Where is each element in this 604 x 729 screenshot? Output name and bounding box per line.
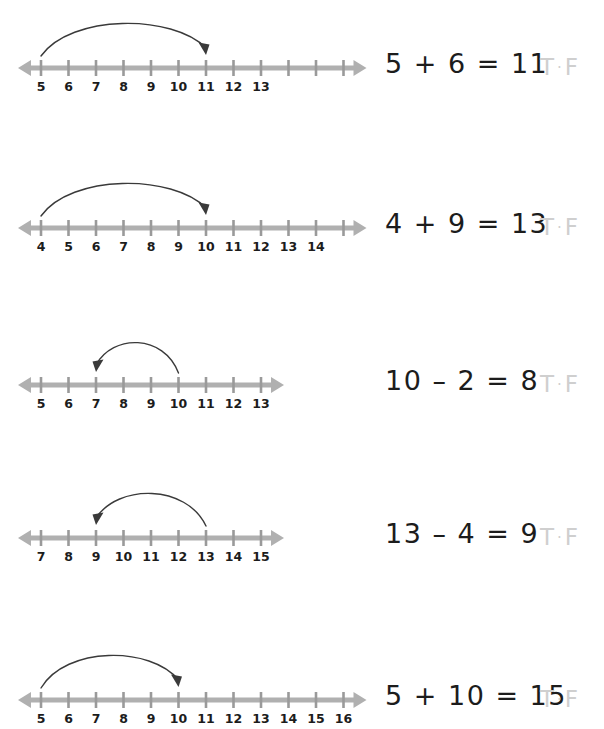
answer-true-option[interactable]: T (540, 54, 557, 80)
tick-label: 15 (307, 711, 324, 726)
tick-label: 4 (37, 239, 46, 254)
answer-choice-group: T·F (540, 56, 581, 79)
jump-arrowhead-icon (171, 675, 182, 688)
tick-label: 6 (64, 396, 73, 411)
tick-label: 11 (225, 239, 242, 254)
tick-label: 6 (92, 239, 101, 254)
problem-row: 45678910111213144 + 9 = 13T·F (0, 168, 604, 288)
number-line-4: 789101112131415 (0, 478, 380, 598)
tick-label: 9 (174, 239, 183, 254)
jump-arrowhead-icon (199, 43, 210, 56)
tick-label: 8 (119, 396, 128, 411)
axis-arrow-left-icon (18, 377, 31, 393)
tick-label: 11 (197, 396, 214, 411)
problem-row: 56789101112135 + 6 = 11T·F (0, 8, 604, 128)
answer-choice-group: T·F (540, 688, 581, 711)
tick-label: 13 (197, 549, 214, 564)
tick-label: 9 (92, 549, 101, 564)
number-line-1: 5678910111213 (0, 8, 380, 128)
worksheet-page: 56789101112135 + 6 = 11T·F45678910111213… (0, 0, 604, 729)
answer-false-option[interactable]: F (565, 686, 581, 712)
number-line-5: 5678910111213141516 (0, 640, 380, 729)
jump-arc (41, 23, 206, 56)
tick-label: 13 (252, 711, 269, 726)
tick-label: 10 (197, 239, 215, 254)
tick-label: 6 (64, 79, 73, 94)
tick-label: 5 (37, 79, 46, 94)
answer-false-option[interactable]: F (565, 54, 581, 80)
tick-label: 14 (280, 711, 298, 726)
tick-label: 12 (170, 549, 187, 564)
answer-choice-group: T·F (540, 526, 581, 549)
jump-arrowhead-icon (199, 203, 210, 216)
jump-arc (41, 655, 179, 688)
tick-label: 10 (170, 711, 188, 726)
equation-text: 10 – 2 = 8 (385, 367, 539, 394)
tick-label: 8 (64, 549, 73, 564)
axis-arrow-left-icon (18, 60, 31, 76)
jump-arrowhead-icon (93, 513, 104, 526)
answer-false-option[interactable]: F (565, 371, 581, 397)
axis-arrow-right-icon (271, 377, 284, 393)
number-line-graphic: 5678910111213 (0, 325, 380, 445)
number-line-3: 5678910111213 (0, 325, 380, 445)
number-line-graphic: 5678910111213141516 (0, 640, 380, 729)
tick-label: 12 (225, 396, 242, 411)
tick-label: 13 (252, 396, 269, 411)
tick-label: 12 (225, 711, 242, 726)
answer-false-option[interactable]: F (565, 214, 581, 240)
equation-text: 13 – 4 = 9 (385, 520, 539, 547)
tick-label: 5 (64, 239, 73, 254)
tick-label: 8 (119, 711, 128, 726)
tick-label: 13 (252, 79, 269, 94)
number-line-graphic: 4567891011121314 (0, 168, 380, 288)
axis-arrow-left-icon (18, 220, 31, 236)
tick-label: 12 (252, 239, 269, 254)
tick-label: 9 (147, 711, 156, 726)
tick-label: 7 (92, 396, 101, 411)
answer-separator-dot: · (557, 529, 565, 547)
tick-label: 6 (64, 711, 73, 726)
tick-label: 10 (170, 79, 188, 94)
answer-separator-dot: · (557, 219, 565, 237)
tick-label: 13 (280, 239, 297, 254)
tick-label: 9 (147, 79, 156, 94)
tick-label: 10 (115, 549, 133, 564)
answer-true-option[interactable]: T (540, 524, 557, 550)
tick-label: 16 (335, 711, 353, 726)
tick-label: 8 (147, 239, 156, 254)
tick-label: 11 (142, 549, 159, 564)
tick-label: 5 (37, 711, 46, 726)
tick-label: 11 (197, 711, 214, 726)
tick-label: 10 (170, 396, 188, 411)
tick-label: 7 (92, 711, 101, 726)
number-line-graphic: 5678910111213 (0, 8, 380, 128)
jump-arrowhead-icon (93, 360, 104, 373)
jump-arc (96, 343, 179, 373)
tick-label: 14 (225, 549, 243, 564)
equation-text: 5 + 6 = 11 (385, 50, 548, 77)
answer-true-option[interactable]: T (540, 686, 557, 712)
answer-choice-group: T·F (540, 373, 581, 396)
answer-separator-dot: · (557, 691, 565, 709)
tick-label: 12 (225, 79, 242, 94)
axis-arrow-right-icon (354, 220, 367, 236)
answer-false-option[interactable]: F (565, 524, 581, 550)
jump-arc (41, 183, 206, 216)
answer-separator-dot: · (557, 376, 565, 394)
axis-arrow-left-icon (18, 692, 31, 708)
tick-label: 11 (197, 79, 214, 94)
problem-row: 78910111213141513 – 4 = 9T·F (0, 478, 604, 598)
axis-arrow-right-icon (354, 692, 367, 708)
answer-choice-group: T·F (540, 216, 581, 239)
answer-true-option[interactable]: T (540, 214, 557, 240)
axis-arrow-right-icon (271, 530, 284, 546)
number-line-graphic: 789101112131415 (0, 478, 380, 598)
tick-label: 7 (92, 79, 101, 94)
answer-true-option[interactable]: T (540, 371, 557, 397)
tick-label: 7 (37, 549, 46, 564)
tick-label: 5 (37, 396, 46, 411)
axis-arrow-right-icon (354, 60, 367, 76)
answer-separator-dot: · (557, 59, 565, 77)
tick-label: 7 (119, 239, 128, 254)
